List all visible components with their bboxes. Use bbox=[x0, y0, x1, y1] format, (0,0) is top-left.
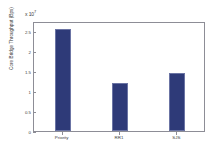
y-axis-tick-label: 2 bbox=[29, 50, 31, 55]
y-axis-exponent-prefix: x 10 bbox=[25, 11, 34, 17]
y-axis-tick-label: 2.5 bbox=[25, 30, 31, 35]
y-axis-title: Core Bridge Throughput (Bps) bbox=[9, 0, 14, 98]
y-axis-tick-mark bbox=[33, 52, 36, 53]
y-axis-tick-label-group: 00.511.522.5 bbox=[18, 22, 31, 132]
y-axis-tick-label: 1 bbox=[29, 90, 31, 95]
bar bbox=[112, 83, 128, 131]
plot-box bbox=[33, 22, 205, 132]
x-axis-tick-label: SJS bbox=[172, 135, 180, 140]
x-axis-tick-label: Priority bbox=[55, 135, 69, 140]
y-axis-exponent-power: 7 bbox=[34, 9, 36, 14]
figure-canvas: x 107 Core Bridge Throughput (Bps) 00.51… bbox=[0, 0, 215, 154]
y-axis-tick-mark bbox=[33, 72, 36, 73]
y-axis-tick-mark bbox=[33, 92, 36, 93]
plot-area bbox=[34, 23, 204, 131]
y-axis-tick-label: 1.5 bbox=[25, 70, 31, 75]
x-axis-tick-mark bbox=[62, 132, 63, 135]
x-axis-tick-mark bbox=[176, 132, 177, 135]
y-axis-tick-label: 0.5 bbox=[25, 110, 31, 115]
y-axis-tick-mark bbox=[33, 112, 36, 113]
x-axis-tick-label: RR1 bbox=[115, 135, 124, 140]
bar bbox=[55, 29, 71, 131]
bar bbox=[169, 73, 185, 131]
y-axis-tick-mark bbox=[33, 132, 36, 133]
y-axis-tick-mark bbox=[33, 32, 36, 33]
y-axis-tick-label: 0 bbox=[29, 130, 31, 135]
x-axis-tick-mark bbox=[119, 132, 120, 135]
y-axis-exponent-label: x 107 bbox=[25, 9, 36, 17]
